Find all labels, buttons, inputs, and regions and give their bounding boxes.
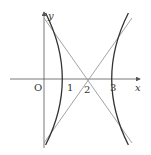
x-axis-label: x	[135, 82, 141, 93]
x-tick-2: 2	[84, 84, 90, 95]
y-axis-label: y	[47, 10, 54, 21]
hyperbola-figure: O 1 2 3 x y	[0, 0, 151, 155]
origin-label: O	[34, 82, 42, 93]
x-tick-1: 1	[67, 82, 73, 93]
x-tick-3: 3	[110, 82, 116, 93]
